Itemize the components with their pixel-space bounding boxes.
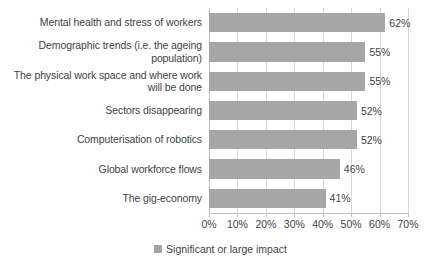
legend-entry-label: Significant or large impact (166, 243, 287, 255)
bar-row: 55% (209, 72, 408, 91)
x-axis-tick-label: 10% (227, 218, 248, 230)
category-label: The physical work space and where work w… (0, 69, 202, 94)
bar-row: 55% (209, 42, 408, 61)
chart-legend: Significant or large impact (0, 243, 441, 255)
bar[interactable] (209, 189, 326, 208)
x-axis-tick (294, 213, 295, 217)
x-axis-tick (380, 213, 381, 217)
bar-value-label: 55% (365, 75, 390, 87)
bar-row: 52% (209, 130, 408, 149)
x-axis-tick (237, 213, 238, 217)
category-label-row: Global workforce flows (0, 154, 205, 183)
bar-row: 41% (209, 189, 408, 208)
category-label: Sectors disappearing (105, 104, 202, 117)
x-axis-tick-label: 70% (397, 218, 418, 230)
x-axis-tick-label: 30% (284, 218, 305, 230)
x-axis-tick (209, 213, 210, 217)
x-axis-tick (323, 213, 324, 217)
category-axis-labels: Mental health and stress of workers Demo… (0, 8, 207, 213)
category-label-row: Demographic trends (i.e. the ageing popu… (0, 37, 205, 66)
bar[interactable] (209, 13, 385, 32)
x-axis-tick-label: 40% (312, 218, 333, 230)
bar-row: 52% (209, 101, 408, 120)
bar-value-label: 46% (340, 163, 365, 175)
x-axis-tick-label: 0% (201, 218, 216, 230)
x-axis-line (209, 213, 408, 214)
x-axis-tick (408, 213, 409, 217)
bar-value-label: 52% (357, 105, 382, 117)
x-axis-tick-label: 60% (369, 218, 390, 230)
bar-value-label: 52% (357, 134, 382, 146)
category-label-row: Mental health and stress of workers (0, 8, 205, 37)
category-label: The gig-economy (122, 192, 202, 205)
category-label-row: Sectors disappearing (0, 96, 205, 125)
gridline-70 (408, 8, 409, 213)
bar-value-label: 55% (365, 46, 390, 58)
category-label: Computerisation of robotics (77, 133, 202, 146)
x-axis-tick (266, 213, 267, 217)
bar[interactable] (209, 72, 365, 91)
bar-value-label: 62% (385, 17, 410, 29)
bars-area: 62% 55% 55% 52% 52% 46% (209, 8, 408, 213)
x-axis-tick-label: 50% (341, 218, 362, 230)
x-axis-tick (351, 213, 352, 217)
category-label: Mental health and stress of workers (40, 16, 202, 29)
bar[interactable] (209, 130, 357, 149)
bar-row: 62% (209, 13, 408, 32)
category-label: Demographic trends (i.e. the ageing popu… (0, 39, 202, 64)
plot-area: Mental health and stress of workers Demo… (0, 8, 441, 213)
bar[interactable] (209, 159, 340, 178)
bar[interactable] (209, 42, 365, 61)
bar-chart: Mental health and stress of workers Demo… (0, 0, 441, 265)
category-label-row: The physical work space and where work w… (0, 67, 205, 96)
legend-swatch-icon (154, 245, 162, 253)
x-axis-tick-label: 20% (255, 218, 276, 230)
bar-value-label: 41% (326, 192, 351, 204)
bar-row: 46% (209, 159, 408, 178)
bar[interactable] (209, 101, 357, 120)
category-label-row: The gig-economy (0, 184, 205, 213)
category-label-row: Computerisation of robotics (0, 125, 205, 154)
category-label: Global workforce flows (99, 163, 202, 176)
